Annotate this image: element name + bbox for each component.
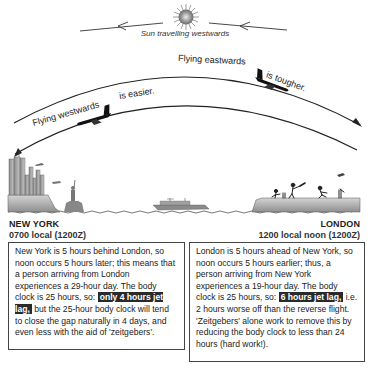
new-york-explanation-box: New York is 5 hours behind London, so no…: [8, 242, 185, 350]
statue-of-liberty-icon: [64, 180, 84, 212]
ship-icon: [153, 198, 209, 210]
westward-arrowhead-icon: [14, 148, 22, 157]
sun-caption: Sun travelling westwards: [115, 29, 255, 38]
new-york-label: NEW YORK: [9, 219, 59, 229]
sun-icon: [173, 4, 199, 30]
london-time: 1200 local noon (1200Z): [258, 230, 360, 240]
new-york-skyline: [8, 150, 61, 212]
london-explanation-box: London is 5 hours ahead of New York, so …: [189, 242, 365, 362]
london-land: [252, 198, 360, 212]
new-york-time: 0700 local (1200Z): [9, 230, 86, 240]
london-label: LONDON: [320, 219, 360, 229]
london-jet-lag-highlight: 6 hours jet lag,: [279, 292, 344, 302]
london-stick-figures: [272, 173, 345, 198]
eastward-arrowhead-icon: [352, 118, 362, 127]
new-york-explanation-text-continued: but the 25-hour body clock will tend to …: [15, 304, 169, 337]
